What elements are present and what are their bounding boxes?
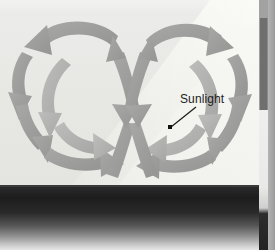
sunlight-label: Sunlight: [180, 92, 224, 106]
screenshot-root: Sunlight Atmospheric convection cells le…: [0, 0, 275, 250]
arrow-right-top: [146, 24, 234, 56]
scrollbar-thumb[interactable]: [260, 18, 268, 111]
vertical-scrollbar[interactable]: [259, 0, 275, 250]
arrow-left-top: [24, 21, 118, 55]
circulation-arrows: [0, 0, 259, 250]
sunlight-leader-line: [168, 107, 196, 129]
sunlight-leader-endpoint-dot: [168, 125, 172, 129]
scrollbar-lower-region[interactable]: [259, 110, 268, 250]
scrollbar-gutter: [268, 0, 275, 250]
convection-diagram: Sunlight: [0, 0, 259, 250]
